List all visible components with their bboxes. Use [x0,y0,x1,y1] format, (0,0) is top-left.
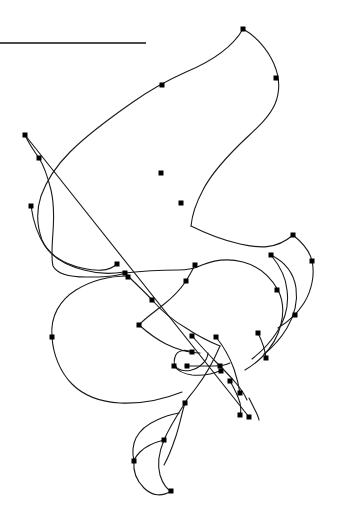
node-v-apex[interactable] [150,298,155,303]
node-center-bar-right[interactable] [193,263,198,268]
node-left-junction[interactable] [37,156,42,161]
node-serpent-start[interactable] [219,369,224,374]
node-spiral-top[interactable] [190,350,195,355]
node-arc-top[interactable] [269,253,274,258]
node-bar-end[interactable] [184,279,189,284]
node-arc-lower[interactable] [293,313,298,318]
node-left-loop-edge[interactable] [50,335,55,340]
node-cluster-top[interactable] [190,334,195,339]
node-diagonal-end[interactable] [247,415,252,420]
drawing-surface[interactable] [0,0,337,520]
node-upper-right[interactable] [274,76,279,81]
node-right-far[interactable] [291,233,296,238]
node-tail-bottom[interactable] [238,413,243,418]
node-right-tail-tip[interactable] [264,356,269,361]
node-left-upper[interactable] [23,133,28,138]
node-arc-outer[interactable] [310,259,315,264]
node-arc-end[interactable] [256,331,261,336]
drawing-canvas[interactable] [0,0,337,520]
node-center-upper[interactable] [115,262,120,267]
node-cluster-low[interactable] [238,391,243,396]
node-arc-mid[interactable] [275,288,280,293]
node-spiral-inner[interactable] [185,364,190,369]
node-cluster-right[interactable] [214,335,219,340]
node-v-left[interactable] [137,323,142,328]
node-right-lower-bend[interactable] [179,201,184,206]
node-serpent-upper[interactable] [183,401,188,406]
node-cluster-mid[interactable] [228,379,233,384]
node-wave-left[interactable] [132,459,137,464]
node-spiral-left[interactable] [172,364,177,369]
node-left-mid[interactable] [29,204,34,209]
node-apex-top[interactable] [241,27,246,32]
node-right-bend[interactable] [159,171,164,176]
node-wave-bottom[interactable] [169,489,174,494]
node-center-base[interactable] [126,275,131,280]
node-hook-right[interactable] [218,364,223,369]
node-upper-mid[interactable] [160,83,165,88]
node-wave-mid[interactable] [162,438,167,443]
canvas-background [0,0,337,520]
